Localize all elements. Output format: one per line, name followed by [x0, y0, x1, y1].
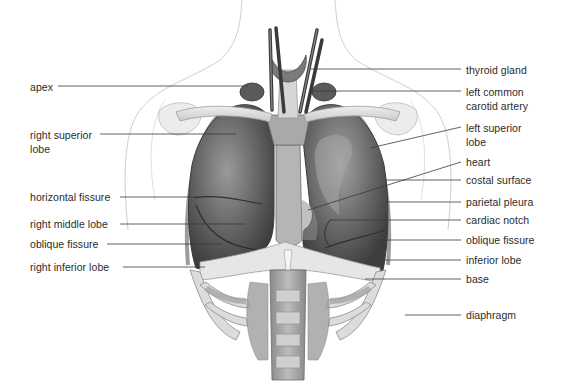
label-parietal-pleura: parietal pleura [466, 195, 533, 209]
lung-anatomy-diagram: apexright superiorlobehorizontal fissure… [0, 0, 566, 389]
label-text-line: right inferior lobe [30, 260, 109, 274]
label-oblique-fissure-left: oblique fissure [466, 233, 534, 247]
label-thyroid-gland: thyroid gland [466, 63, 527, 77]
label-text-line: lobe [466, 135, 522, 149]
label-apex: apex [30, 80, 53, 94]
left-lung [302, 105, 388, 277]
label-right-middle-lobe: right middle lobe [30, 217, 108, 231]
label-text-line: right middle lobe [30, 217, 108, 231]
label-text-line: heart [466, 155, 490, 169]
label-text-line: carotid artery [466, 99, 528, 113]
label-text-line: right superior [30, 128, 92, 142]
label-left-superior-lobe: left superiorlobe [466, 121, 522, 149]
label-text-line: left common [466, 85, 528, 99]
label-text-line: diaphragm [466, 308, 516, 322]
thyroid [270, 55, 307, 82]
label-costal-surface: costal surface [466, 173, 531, 187]
label-text-line: horizontal fissure [30, 190, 110, 204]
label-base: base [466, 272, 489, 286]
label-cardiac-notch: cardiac notch [466, 213, 529, 227]
label-oblique-fissure-right: oblique fissure [30, 237, 98, 251]
label-right-superior-lobe: right superiorlobe [30, 128, 92, 156]
label-heart: heart [466, 155, 490, 169]
manubrium [266, 115, 310, 145]
label-left-common-carotid-artery: left commoncarotid artery [466, 85, 528, 113]
label-text-line: base [466, 272, 489, 286]
label-text-line: oblique fissure [466, 233, 534, 247]
label-text-line: costal surface [466, 173, 531, 187]
sternum [276, 145, 302, 246]
label-inferior-lobe: inferior lobe [466, 253, 522, 267]
label-text-line: inferior lobe [466, 253, 522, 267]
label-text-line: cardiac notch [466, 213, 529, 227]
label-diaphragm: diaphragm [466, 308, 516, 322]
label-text-line: oblique fissure [30, 237, 98, 251]
label-text-line: left superior [466, 121, 522, 135]
label-text-line: parietal pleura [466, 195, 533, 209]
label-text-line: apex [30, 80, 53, 94]
label-right-inferior-lobe: right inferior lobe [30, 260, 109, 274]
label-horizontal-fissure: horizontal fissure [30, 190, 110, 204]
label-text-line: thyroid gland [466, 63, 527, 77]
label-text-line: lobe [30, 142, 92, 156]
